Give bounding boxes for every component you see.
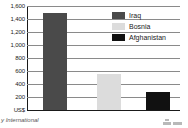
y-tick-label: 400 xyxy=(0,81,25,87)
y-axis-unit-label: US$ xyxy=(0,107,25,113)
legend-item-iraq: Iraq xyxy=(112,10,184,21)
bar-bosnia xyxy=(97,74,121,110)
legend-label-bosnia: Bosnia xyxy=(129,23,150,31)
legend-swatch-icon-iraq xyxy=(112,12,125,19)
publisher-logo-icon xyxy=(163,119,185,126)
legend-swatch-icon-bosnia xyxy=(112,23,125,30)
legend-label-afghanistan: Afghanistan xyxy=(129,34,166,42)
bar-afghanistan xyxy=(146,92,170,110)
y-axis-labels: 1,600 1,400 1,200 1,000 800 600 400 200 … xyxy=(0,0,25,128)
source-note: y International xyxy=(1,117,39,124)
legend-swatch-icon-afghanistan xyxy=(112,34,125,41)
legend-label-iraq: Iraq xyxy=(129,12,141,20)
bar-iraq xyxy=(43,13,67,110)
axis-baseline xyxy=(27,110,180,111)
y-tick-label: 800 xyxy=(0,55,25,61)
y-tick-label: 1,400 xyxy=(0,16,25,22)
y-tick-label: 1,000 xyxy=(0,42,25,48)
legend: Iraq Bosnia Afghanistan xyxy=(112,10,184,43)
y-tick-label: 1,600 xyxy=(0,3,25,9)
y-tick-label: 1,200 xyxy=(0,29,25,35)
legend-item-bosnia: Bosnia xyxy=(112,21,184,32)
y-tick-label: 200 xyxy=(0,94,25,100)
y-tick-label: 600 xyxy=(0,68,25,74)
legend-item-afghanistan: Afghanistan xyxy=(112,32,184,43)
bar-chart: 1,600 1,400 1,200 1,000 800 600 400 200 … xyxy=(0,0,188,128)
